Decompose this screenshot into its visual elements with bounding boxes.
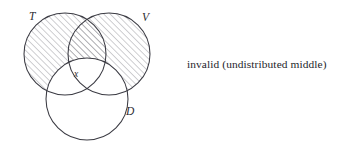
- verdict-caption: invalid (undistributed middle): [187, 57, 339, 71]
- shaded-region-t: [0, 0, 343, 149]
- venn-diagram-svg: T V D x: [0, 0, 343, 149]
- circle-label-d: D: [125, 105, 135, 117]
- circle-label-t: T: [29, 10, 37, 22]
- circle-label-v: V: [142, 11, 151, 23]
- venn-figure: T V D x invalid (undistributed middle): [0, 0, 343, 149]
- marker-label-x: x: [73, 69, 79, 79]
